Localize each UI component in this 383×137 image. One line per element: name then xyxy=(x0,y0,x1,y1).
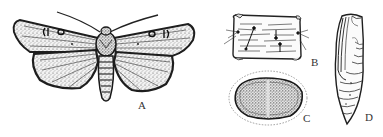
panel-label-a: A xyxy=(138,100,146,111)
larva-segment-panel-b xyxy=(224,14,309,60)
panel-label-d: D xyxy=(365,112,373,123)
panel-label-b: B xyxy=(311,57,318,68)
pupa-panel-d xyxy=(335,14,363,124)
illustration-figure: A B C D xyxy=(0,0,383,137)
illustration-drawing xyxy=(0,0,383,137)
cross-section-panel-c xyxy=(229,71,307,125)
panel-label-c: C xyxy=(303,113,310,124)
moth-panel-a xyxy=(14,12,195,101)
